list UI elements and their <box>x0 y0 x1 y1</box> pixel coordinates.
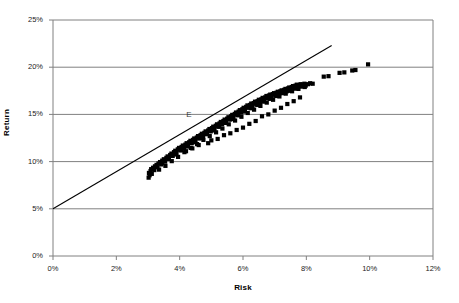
scatter-points <box>147 62 371 179</box>
scatter-point <box>268 97 272 101</box>
x-tick-label: 4% <box>165 264 195 273</box>
y-tick-label: 25% <box>17 15 43 24</box>
scatter-point <box>230 117 234 121</box>
scatter-point <box>228 131 232 135</box>
scatter-point <box>197 143 201 147</box>
plot-border <box>53 20 433 256</box>
scatter-point <box>298 95 302 99</box>
scatter-point <box>254 119 258 123</box>
cml-line <box>53 45 332 208</box>
scatter-point <box>216 137 220 141</box>
scatter-point <box>337 71 341 75</box>
x-tick-label: 2% <box>101 264 131 273</box>
x-tick-label: 12% <box>418 264 448 273</box>
scatter-point <box>299 84 303 88</box>
scatter-point <box>285 102 289 106</box>
x-tick-label: 8% <box>291 264 321 273</box>
scatter-point <box>160 161 164 165</box>
x-tick-label: 10% <box>355 264 385 273</box>
scatter-point <box>342 70 346 74</box>
scatter-point <box>211 128 215 132</box>
scatter-point <box>280 91 284 95</box>
scatter-point <box>242 109 246 113</box>
scatter-point <box>241 126 245 130</box>
x-tick-label: 0% <box>38 264 68 273</box>
capital-market-line <box>53 45 332 208</box>
scatter-point <box>166 157 170 161</box>
y-tick-label: 20% <box>17 62 43 71</box>
plot-canvas <box>0 0 459 303</box>
scatter-point <box>185 144 189 148</box>
y-tick-label: 15% <box>17 109 43 118</box>
scatter-point <box>293 86 297 90</box>
scatter-point <box>192 140 196 144</box>
scatter-point <box>287 89 291 93</box>
scatter-chart: Return Risk 0%5%10%15%20%25% 0%2%4%6%8%1… <box>0 0 459 303</box>
scatter-point <box>260 114 264 118</box>
scatter-point <box>209 138 213 142</box>
scatter-point <box>179 148 183 152</box>
scatter-point <box>235 128 239 132</box>
y-tick-label: 10% <box>17 157 43 166</box>
scatter-point <box>150 172 154 176</box>
scatter-point <box>255 103 259 107</box>
scatter-point <box>223 121 227 125</box>
scatter-point <box>366 62 370 66</box>
scatter-point <box>198 136 202 140</box>
scatter-point <box>217 125 221 129</box>
x-axis-ticks <box>53 256 433 260</box>
scatter-point <box>326 74 330 78</box>
scatter-point <box>157 168 161 172</box>
scatter-point <box>222 133 226 137</box>
scatter-point <box>266 112 270 116</box>
scatter-point <box>279 106 283 110</box>
annotation-label-e: E <box>186 110 191 119</box>
scatter-point <box>247 122 251 126</box>
scatter-point <box>236 113 240 117</box>
scatter-point <box>322 75 326 79</box>
scatter-point <box>249 106 253 110</box>
y-tick-label: 0% <box>17 251 43 260</box>
scatter-point <box>274 94 278 98</box>
scatter-point <box>173 152 177 156</box>
scatter-point <box>311 82 315 86</box>
scatter-point <box>204 132 208 136</box>
y-tick-label: 5% <box>17 204 43 213</box>
scatter-point <box>353 68 357 72</box>
scatter-point <box>261 100 265 104</box>
scatter-point <box>273 109 277 113</box>
x-tick-label: 6% <box>228 264 258 273</box>
scatter-point <box>190 146 194 150</box>
x-axis-title: Risk <box>53 283 433 292</box>
scatter-point <box>292 99 296 103</box>
y-axis-ticks <box>49 20 53 256</box>
scatter-point <box>184 149 188 153</box>
y-axis-title: Return <box>2 93 11 153</box>
